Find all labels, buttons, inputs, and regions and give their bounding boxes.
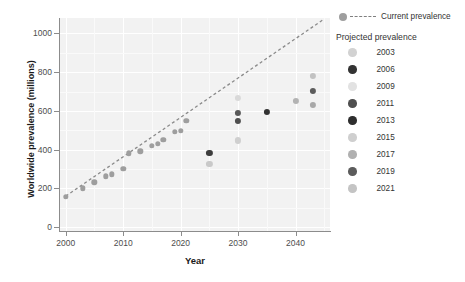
- x-tick: [296, 231, 297, 236]
- x-tick-label: 2030: [229, 239, 248, 248]
- gridline-horizontal: [60, 188, 330, 189]
- x-tick: [181, 231, 182, 236]
- gridline-vertical: [238, 18, 239, 231]
- legend-label-2017: 2017: [377, 150, 395, 159]
- x-axis-line: [59, 231, 331, 232]
- y-tick: [54, 150, 59, 151]
- gridline-vertical: [66, 18, 67, 231]
- gridline-horizontal: [60, 150, 330, 151]
- gridline-horizontal: [60, 227, 330, 228]
- legend-item-2019[interactable]: 2019: [348, 163, 465, 180]
- legend-label-2021: 2021: [377, 184, 395, 193]
- legend-swatch-2017: [348, 150, 357, 159]
- x-tick-label: 2010: [114, 239, 133, 248]
- gridline-horizontal: [60, 72, 330, 73]
- y-tick: [54, 227, 59, 228]
- x-tick: [238, 231, 239, 236]
- legend-label-2011: 2011: [377, 99, 395, 108]
- legend-item-2003[interactable]: 2003: [348, 44, 465, 61]
- y-tick-label: 0: [47, 223, 52, 232]
- legend-item-2009[interactable]: 2009: [348, 78, 465, 95]
- gridline-horizontal: [60, 111, 330, 112]
- legend-label-2019: 2019: [377, 167, 395, 176]
- y-tick-label: 400: [38, 146, 52, 155]
- legend-swatch-2019: [348, 167, 357, 176]
- gridline-horizontal-minor: [60, 53, 330, 54]
- gridline-vertical-minor: [209, 18, 210, 231]
- gridline-horizontal-minor: [60, 208, 330, 209]
- y-tick: [54, 33, 59, 34]
- gridline-vertical-minor: [267, 18, 268, 231]
- x-axis-title: Year: [60, 255, 330, 266]
- y-tick-label: 800: [38, 68, 52, 77]
- legend-item-2011[interactable]: 2011: [348, 95, 465, 112]
- gridline-vertical: [123, 18, 124, 231]
- legend-label-2015: 2015: [377, 133, 395, 142]
- gridline-vertical: [181, 18, 182, 231]
- legend-swatch-2013: [348, 116, 357, 125]
- legend-group-title: Projected prevalence: [336, 32, 465, 42]
- legend-label-current: Current prevalence: [381, 12, 451, 21]
- chart-figure: 02004006008001000 20002010202020302040 W…: [0, 0, 465, 282]
- gridline-vertical-minor: [94, 18, 95, 231]
- x-tick-label: 2020: [171, 239, 190, 248]
- y-tick-label: 1000: [33, 29, 52, 38]
- gridline-horizontal-minor: [60, 169, 330, 170]
- y-axis-line: [59, 18, 60, 231]
- legend-item-2006[interactable]: 2006: [348, 61, 465, 78]
- y-tick: [54, 111, 59, 112]
- legend-swatch-2011: [348, 99, 357, 108]
- gridline-vertical-minor: [324, 18, 325, 231]
- legend-swatch-2021: [348, 184, 357, 193]
- gridline-horizontal: [60, 33, 330, 34]
- y-tick: [54, 188, 59, 189]
- y-tick-label: 600: [38, 107, 52, 116]
- legend-item-2021[interactable]: 2021: [348, 180, 465, 197]
- legend-label-2003: 2003: [377, 48, 395, 57]
- y-tick: [54, 72, 59, 73]
- legend-projected-items: 200320062009201120132015201720192021: [348, 44, 465, 197]
- gridline-vertical-minor: [152, 18, 153, 231]
- legend-item-2013[interactable]: 2013: [348, 112, 465, 129]
- legend-item-2017[interactable]: 2017: [348, 146, 465, 163]
- current-prevalence-dot-icon: [336, 10, 350, 24]
- x-tick: [66, 231, 67, 236]
- x-tick-label: 2000: [56, 239, 75, 248]
- legend-label-2013: 2013: [377, 116, 395, 125]
- gridline-vertical: [296, 18, 297, 231]
- legend-swatch-2003: [348, 48, 357, 57]
- legend-swatch-2009: [348, 82, 357, 91]
- legend-item-2015[interactable]: 2015: [348, 129, 465, 146]
- legend-swatch-2015: [348, 133, 357, 142]
- y-tick-label: 200: [38, 184, 52, 193]
- plot-area: [60, 18, 330, 231]
- y-axis-title: Worldwide prevalence (millions): [26, 54, 36, 204]
- x-tick: [123, 231, 124, 236]
- gridline-horizontal-minor: [60, 92, 330, 93]
- legend-entry-current[interactable]: Current prevalence: [336, 8, 465, 25]
- legend-swatch-2006: [348, 65, 357, 74]
- legend: Current prevalence Projected prevalence …: [336, 8, 465, 197]
- legend-label-2009: 2009: [377, 82, 395, 91]
- current-prevalence-dashed-line-icon: [350, 10, 376, 24]
- x-tick-label: 2040: [286, 239, 305, 248]
- gridline-horizontal-minor: [60, 130, 330, 131]
- legend-label-2006: 2006: [377, 65, 395, 74]
